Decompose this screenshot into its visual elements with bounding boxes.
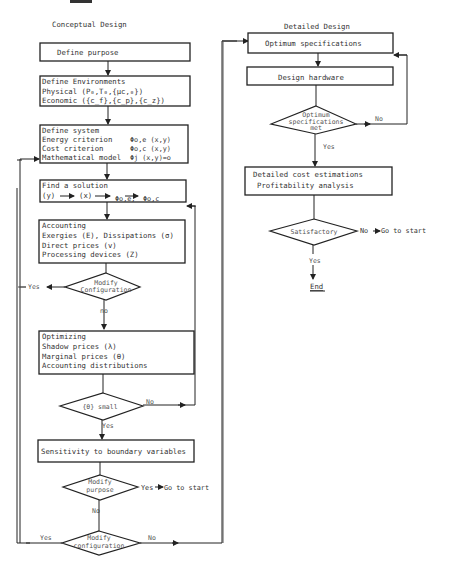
modify-config-2-no: No (148, 534, 156, 542)
shadow-prices: Shadow prices (λ) (42, 342, 117, 351)
solution-title: Find a solution (42, 181, 108, 190)
accounting-distributions: Accounting distributions (42, 361, 147, 370)
optimum-specifications-label: Optimum specifications (265, 39, 362, 48)
satisfactory-go-to-start: Go to start (381, 227, 426, 235)
solution-phi-oc: Φo,c (143, 195, 159, 203)
accounting-processing-devices: Processing devices (Z) (42, 250, 139, 259)
cost-estimations-label: Detailed cost estimations (253, 170, 363, 179)
define-purpose-label: Define purpose (57, 48, 119, 57)
environments-title: Define Environments (42, 77, 125, 86)
theta-small-yes: Yes (102, 422, 114, 430)
math-model-expr: Φj (x,y)=o (130, 154, 171, 162)
accounting-direct-prices: Direct prices (v) (42, 241, 117, 250)
math-model-label: Mathematical model (42, 153, 121, 162)
specs-met-line3: met (310, 124, 322, 132)
modify-purpose-yes: Yes (141, 484, 153, 492)
modify-config-1-yes: Yes (28, 283, 40, 291)
accounting-title: Accounting (42, 221, 86, 230)
specs-met-yes: Yes (323, 143, 335, 151)
solution-x: (x) (79, 191, 92, 200)
end-label: End (310, 282, 323, 291)
satisfactory-no: No (360, 227, 368, 235)
modify-config-1-line2: Configuration (81, 286, 132, 294)
environments-physical: Physical (P₀,T₀,{μc,₀}) (42, 87, 143, 96)
detailed-heading: Detailed Design (284, 22, 350, 31)
cost-criterion-expr: Φo,c (x,y) (130, 145, 171, 153)
marginal-prices: Marginal prices (θ) (42, 352, 125, 361)
modify-config-2-yes: Yes (40, 534, 52, 542)
design-hardware-label: Design hardware (278, 73, 344, 82)
specs-met-no: No (375, 115, 383, 123)
modify-purpose-line2: purpose (86, 486, 113, 494)
theta-small-label: {θ} small (82, 403, 117, 411)
satisfactory-yes: Yes (309, 257, 321, 265)
modify-config-2-line1: Modify (87, 534, 111, 542)
accounting-exergies: Exergies (E), Dissipations (σ) (42, 231, 174, 240)
environments-economic: Economic ({c_f},{c_p},{c_z}) (42, 96, 165, 105)
modify-config-2-line2: configuration (74, 542, 125, 550)
profitability-analysis-label: Profitability analysis (257, 181, 354, 190)
cost-criterion-label: Cost criterion (42, 144, 104, 153)
system-title: Define system (42, 126, 100, 135)
design-flowchart: Conceptual Design Define purpose Define … (0, 0, 451, 566)
conceptual-heading: Conceptual Design (52, 20, 127, 29)
energy-criterion-label: Energy criterion (42, 135, 112, 144)
solution-y: (y) (42, 191, 55, 200)
energy-criterion-expr: Φo,e (x,y) (130, 136, 171, 144)
optimizing-title: Optimizing (42, 332, 86, 341)
modify-purpose-line1: Modify (88, 478, 112, 486)
corner-mark (70, 0, 92, 3)
sensitivity-label: Sensitivity to boundary variables (41, 447, 186, 456)
satisfactory-label: Satisfactory (291, 228, 338, 236)
modify-purpose-go-to-start: Go to start (164, 484, 209, 492)
